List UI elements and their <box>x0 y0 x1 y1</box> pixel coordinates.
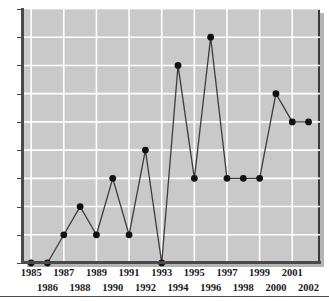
y-tick-mark <box>17 207 22 208</box>
x-tick-label: 1993 <box>145 268 179 279</box>
x-tick-label: 1992 <box>128 283 162 294</box>
x-tick-label: 1986 <box>30 283 64 294</box>
x-tick-label: 2000 <box>259 283 293 294</box>
y-tick-mark <box>17 37 22 38</box>
y-tick-mark <box>17 65 22 66</box>
x-tick-label: 1996 <box>194 283 228 294</box>
x-tick-label: 1985 <box>14 268 48 279</box>
x-tick-label: 2002 <box>292 283 326 294</box>
y-tick-mark <box>17 122 22 123</box>
y-tick-mark <box>17 263 22 264</box>
x-tick-label: 1998 <box>226 283 260 294</box>
x-tick-label: 1988 <box>63 283 97 294</box>
y-axis: 0123456789 <box>0 0 329 301</box>
x-tick-label: 1987 <box>47 268 81 279</box>
x-tick-label: 1997 <box>210 268 244 279</box>
x-tick-label: 1994 <box>161 283 195 294</box>
y-tick-mark <box>17 9 22 10</box>
x-tick-label: 1991 <box>112 268 146 279</box>
y-tick-mark <box>17 94 22 95</box>
footer-rule <box>0 296 329 297</box>
y-tick-mark <box>17 235 22 236</box>
chart-figure: 0123456789 19851986198719881989199019911… <box>0 0 329 301</box>
x-tick-label: 1989 <box>79 268 113 279</box>
x-tick-label: 1999 <box>243 268 277 279</box>
x-tick-label: 1995 <box>177 268 211 279</box>
y-tick-mark <box>17 178 22 179</box>
x-tick-label: 2001 <box>275 268 309 279</box>
y-tick-mark <box>17 150 22 151</box>
x-tick-label: 1990 <box>96 283 130 294</box>
